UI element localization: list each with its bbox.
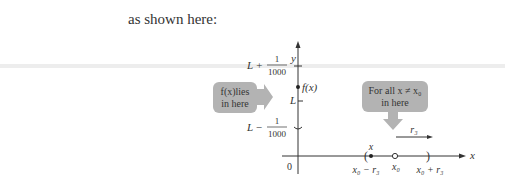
middle-tick-label: L (289, 94, 296, 106)
left-paren: ( (364, 149, 368, 163)
upper-tick-denominator: 1000 (268, 67, 287, 77)
y-axis-arrow-icon (296, 41, 301, 48)
x-point-label: x (368, 141, 374, 152)
x0-open-circle (392, 153, 397, 158)
left-bound-label: x₀ − r₃ (351, 164, 380, 175)
right-bound-label: x₀ + r₃ (415, 164, 444, 175)
x0-label: x₀ (391, 161, 400, 172)
radius-label: r₃ (410, 124, 418, 135)
upper-tick-prefix: L + (246, 59, 263, 71)
fx-label: f(x) (302, 81, 318, 94)
x-point (369, 154, 373, 158)
upper-tick-numerator: 1 (275, 54, 280, 64)
fx-point (296, 85, 300, 89)
left-callout: f(x)lies in here (213, 82, 273, 113)
lower-tick-prefix: L − (246, 121, 263, 133)
right-arrow-icon (256, 84, 273, 110)
origin-label: 0 (287, 161, 292, 172)
left-callout-line2: in here (221, 98, 249, 109)
down-arrow-icon (383, 111, 403, 130)
limit-definition-figure: y x 0 L + 1 1000 L L − 1 1000 f(x) f(x)l… (0, 0, 505, 181)
x-axis-arrow-icon (459, 154, 466, 159)
lower-tick-denominator: 1000 (268, 129, 287, 139)
y-axis-label: y (290, 52, 296, 64)
right-paren: ) (426, 149, 430, 163)
right-callout-line2: in here (381, 97, 409, 108)
right-callout-line1: For all x ≠ x₀ (369, 85, 422, 96)
radius-arrow-head-icon (427, 135, 433, 139)
x-axis-label: x (469, 149, 475, 161)
right-callout: For all x ≠ x₀ in here (362, 81, 428, 130)
lower-tick-numerator: 1 (275, 116, 280, 126)
left-callout-line1: f(x)lies (221, 86, 250, 98)
